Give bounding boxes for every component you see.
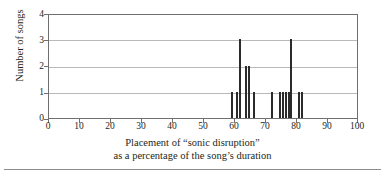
bar	[245, 66, 247, 119]
bar	[248, 66, 250, 119]
y-tick-label-3: 3	[30, 36, 44, 46]
x-axis-title-line1: Placement of “sonic disruption”	[125, 137, 259, 148]
bar	[301, 92, 303, 118]
bar	[231, 92, 233, 118]
bottom-rule	[4, 169, 381, 170]
bar	[290, 39, 292, 118]
x-tick-label-0: 0	[35, 121, 61, 131]
x-tick-label-40: 40	[159, 121, 185, 131]
x-tick-label-50: 50	[190, 121, 216, 131]
x-tick-label-10: 10	[66, 121, 92, 131]
plot-area	[48, 14, 358, 119]
x-axis-title-line2: as a percentage of the song’s duration	[0, 149, 385, 162]
bar	[298, 92, 300, 118]
bar	[282, 92, 284, 118]
y-axis-title: Number of songs	[14, 0, 25, 101]
x-tick-label-100: 100	[344, 121, 370, 131]
x-tick-label-20: 20	[97, 121, 123, 131]
y-tick-label-4: 4	[30, 10, 44, 20]
y-tick-label-2: 2	[30, 62, 44, 72]
bar	[253, 92, 255, 118]
x-tick-label-70: 70	[252, 121, 278, 131]
x-tick-label-30: 30	[128, 121, 154, 131]
x-tick-label-80: 80	[283, 121, 309, 131]
x-axis-tick-labels: 0 10 20 30 40 50 60 70 80 90 100	[0, 121, 385, 135]
x-tick-label-60: 60	[221, 121, 247, 131]
bar	[239, 39, 241, 118]
x-axis-title: Placement of “sonic disruption” as a per…	[0, 136, 385, 162]
bar	[236, 92, 238, 118]
bar	[271, 92, 273, 118]
bar	[285, 92, 287, 118]
y-tick-label-1: 1	[30, 88, 44, 98]
figure: Number of songs 4 3 2 1 0 0 10 20 30 40 …	[0, 0, 385, 180]
x-tick-label-90: 90	[314, 121, 340, 131]
bar-series	[49, 15, 357, 118]
bar	[279, 92, 281, 118]
